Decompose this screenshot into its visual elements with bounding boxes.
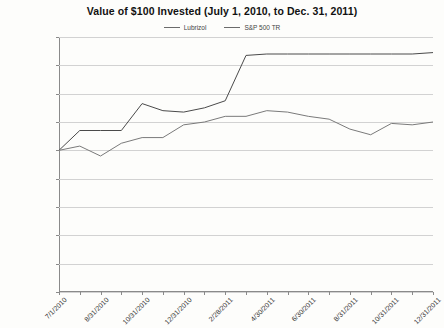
x-tick-label: 2/28/2011	[208, 296, 235, 323]
x-tick-label: 10/31/2010	[121, 296, 151, 326]
x-tick-mark	[163, 292, 164, 295]
series-lines	[59, 37, 433, 292]
x-tick-mark	[329, 292, 330, 295]
x-tick-label: 4/30/2011	[249, 296, 276, 323]
x-tick-mark	[308, 292, 309, 295]
x-tick-mark	[204, 292, 205, 295]
x-tick-mark	[246, 292, 247, 295]
legend-label-sp500: S&P 500 TR	[244, 24, 280, 31]
legend-item-sp500: S&P 500 TR	[224, 24, 280, 31]
x-tick-label: 12/31/2011	[413, 296, 442, 325]
x-tick-mark	[59, 292, 60, 295]
x-tick-label: 8/31/2010	[83, 296, 110, 323]
x-tick-label: 8/31/2011	[332, 296, 359, 323]
legend-swatch-sp500	[224, 27, 240, 28]
x-tick-mark	[350, 292, 351, 295]
legend-swatch-lubrizol	[164, 27, 180, 28]
x-tick-label: 12/31/2010	[163, 296, 193, 326]
legend-item-lubrizol: Lubrizol	[164, 24, 207, 31]
x-tick-mark	[80, 292, 81, 295]
x-tick-label: 7/1/2010	[44, 296, 68, 320]
series-line-lubrizol	[59, 53, 433, 151]
chart-title: Value of $100 Invested (July 1, 2010, to…	[0, 5, 444, 17]
x-tick-mark	[121, 292, 122, 295]
x-tick-mark	[412, 292, 413, 295]
x-tick-mark	[433, 292, 434, 295]
x-tick-mark	[101, 292, 102, 295]
x-tick-mark	[225, 292, 226, 295]
x-tick-mark	[371, 292, 372, 295]
chart-legend: Lubrizol S&P 500 TR	[0, 24, 444, 31]
x-tick-label: 6/30/2011	[291, 296, 318, 323]
series-line-sp500	[59, 111, 433, 156]
x-tick-mark	[142, 292, 143, 295]
legend-label-lubrizol: Lubrizol	[184, 24, 207, 31]
x-tick-mark	[391, 292, 392, 295]
chart-container: Value of $100 Invested (July 1, 2010, to…	[0, 0, 444, 328]
plot-area: $180,00$160,00$140,00$120,00$100,00$80,0…	[59, 37, 433, 292]
x-tick-mark	[288, 292, 289, 295]
x-tick-label: 10/31/2011	[371, 296, 400, 325]
x-tick-mark	[184, 292, 185, 295]
x-tick-mark	[267, 292, 268, 295]
